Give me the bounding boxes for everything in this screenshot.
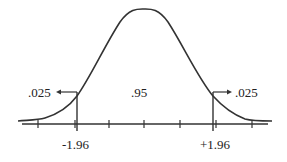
bell-curve bbox=[18, 9, 272, 121]
left-tail-label: .025 bbox=[28, 85, 51, 100]
right-arrowhead-icon bbox=[227, 90, 232, 95]
left-arrowhead-icon bbox=[56, 90, 61, 95]
diagram-svg: .025 .95 .025 -1.96 +1.96 bbox=[0, 0, 287, 162]
normal-distribution-diagram: .025 .95 .025 -1.96 +1.96 bbox=[0, 0, 287, 162]
right-tail-label: .025 bbox=[235, 85, 258, 100]
right-critical-value: +1.96 bbox=[200, 137, 231, 152]
left-critical-value: -1.96 bbox=[62, 137, 90, 152]
center-area-label: .95 bbox=[131, 85, 147, 100]
